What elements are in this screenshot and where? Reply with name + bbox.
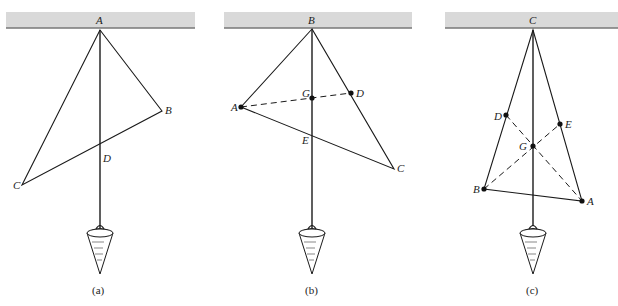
label-B: B (165, 104, 172, 116)
panel-c: C D E G B A (c) (445, 12, 618, 297)
plumb-bob-icon (87, 226, 113, 275)
label-C: C (529, 14, 537, 26)
label-A: A (95, 14, 103, 26)
label-B: B (308, 14, 315, 26)
label-D: D (102, 152, 111, 164)
label-A: A (230, 101, 238, 113)
label-C: C (13, 179, 21, 191)
label-E: E (301, 134, 309, 146)
point-D-b (348, 90, 353, 95)
label-G: G (519, 140, 527, 152)
point-B-c (481, 186, 486, 191)
triangle-lamina-a (22, 30, 162, 185)
plumb-bob-icon (299, 226, 325, 275)
label-D: D (355, 87, 364, 99)
label-A: A (586, 195, 594, 207)
center-of-gravity-diagram: A B C D (a) B A G D E C (b) (0, 0, 618, 306)
panel-a: A B C D (a) (6, 12, 195, 297)
caption-c: (c) (526, 284, 539, 297)
plumb-bob-icon (520, 226, 546, 275)
point-D-c (503, 112, 508, 117)
point-G-b (309, 95, 314, 100)
panel-b: B A G D E C (b) (224, 12, 412, 297)
triangle-lamina-b (241, 29, 394, 169)
point-A-c (579, 198, 584, 203)
caption-b: (b) (305, 284, 318, 297)
ceiling-support-b (224, 12, 412, 28)
label-G: G (302, 87, 310, 99)
label-E: E (564, 118, 572, 130)
label-D: D (493, 110, 502, 122)
point-E-c (557, 121, 562, 126)
caption-a: (a) (92, 284, 105, 297)
label-B: B (473, 183, 480, 195)
point-A-b (238, 104, 243, 109)
point-G-c (530, 143, 535, 148)
label-C: C (397, 162, 405, 174)
dashed-line-AD-b (241, 93, 351, 107)
